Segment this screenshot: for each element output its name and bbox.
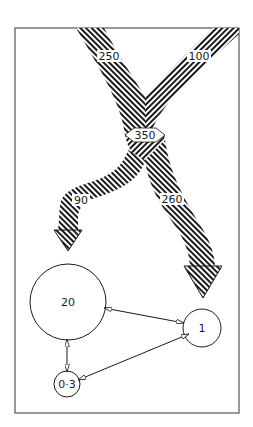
flow-band-90 [58, 150, 145, 232]
flow-label-100: 100 [187, 50, 211, 63]
svg-text:260: 260 [162, 193, 183, 206]
svg-text:20: 20 [61, 296, 75, 309]
flow-band-100 [145, 28, 239, 135]
flow-band-250 [76, 28, 145, 135]
exchange-arrow-0-3-1 [78, 334, 189, 380]
flow-arrowhead-260 [184, 266, 222, 298]
exchange-arrow-20-1 [104, 308, 184, 323]
flow-label-250: 250 [97, 50, 121, 63]
compartment-1: 1 [183, 309, 221, 347]
compartment-20: 20 [30, 264, 106, 340]
svg-text:250: 250 [99, 50, 120, 63]
flow-label-90: 90 [72, 194, 90, 207]
svg-text:0·3: 0·3 [58, 378, 76, 391]
flow-label-350: 350 [125, 128, 165, 142]
flow-diagram: 250 100 350 90 260 20 1 0·3 [0, 0, 253, 427]
svg-text:1: 1 [199, 322, 206, 335]
flow-arrowhead-90 [54, 230, 82, 251]
compartment-0-3: 0·3 [54, 371, 80, 397]
svg-text:350: 350 [135, 129, 156, 142]
flow-label-260: 260 [160, 193, 184, 206]
svg-text:100: 100 [189, 50, 210, 63]
svg-text:90: 90 [74, 194, 88, 207]
